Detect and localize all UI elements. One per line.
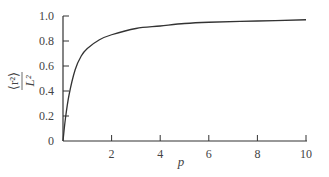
chart: 00.20.40.60.81.0 246810 p ⟨r²⟩ L² — [0, 0, 329, 177]
y-tick-label: 0 — [48, 134, 54, 148]
x-tick-label: 10 — [300, 147, 312, 161]
svg-text:⟨r²⟩: ⟨r²⟩ — [6, 72, 21, 90]
x-tick-label: 4 — [157, 147, 163, 161]
x-tick-label: 6 — [206, 147, 212, 161]
svg-text:L²: L² — [22, 74, 37, 87]
x-tick-label: 2 — [109, 147, 115, 161]
x-axis-label: p — [177, 154, 185, 169]
y-tick-label: 0.8 — [39, 34, 54, 48]
x-tick-label: 8 — [254, 147, 260, 161]
data-line — [63, 20, 306, 141]
y-tick-label: 0.6 — [39, 59, 54, 73]
y-tick-label: 0.2 — [39, 109, 54, 123]
y-tick-label: 1.0 — [39, 9, 54, 23]
x-axis: 246810 — [63, 135, 312, 161]
y-axis-label: ⟨r²⟩ L² — [6, 72, 37, 90]
y-tick-label: 0.4 — [39, 84, 54, 98]
